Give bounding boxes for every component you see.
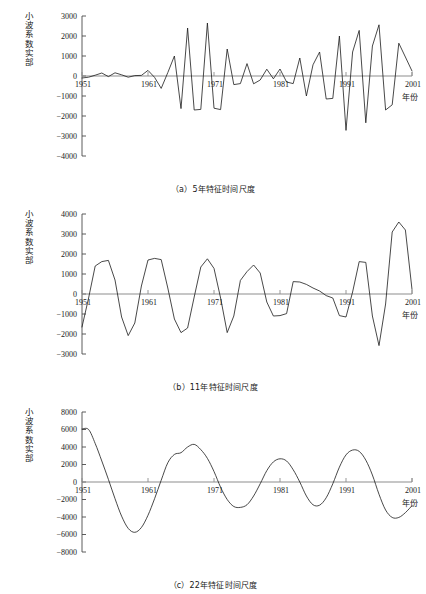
x-tick-label: 1981 (273, 486, 289, 495)
y-tick-label: 2000 (61, 250, 77, 259)
y-tick-label: 2000 (61, 460, 77, 469)
x-axis-label: 年份 (402, 310, 418, 320)
series-line (82, 222, 412, 346)
chart-svg-a: 3000200010000−1000−2000−3000−40001951196… (0, 0, 426, 172)
chart-svg-b: 40003000200010000−1000−2000−300019511961… (0, 198, 426, 370)
x-tick-label: 1991 (339, 486, 355, 495)
y-tick-label: −3000 (56, 350, 77, 359)
y-tick-label: 4000 (61, 443, 77, 452)
y-tick-label: 3000 (61, 230, 77, 239)
x-tick-label: 1951 (75, 486, 91, 495)
plot-area-a: 小波系数实部 3000200010000−1000−2000−3000−4000… (0, 0, 426, 172)
x-tick-label: 2001 (405, 80, 421, 89)
chart-svg-c: 80006000400020000−2000−4000−6000−8000195… (0, 396, 426, 568)
series-line (82, 428, 412, 532)
y-tick-label: −6000 (56, 530, 77, 539)
y-tick-label: 4000 (61, 210, 77, 219)
x-tick-label: 1961 (141, 80, 157, 89)
y-tick-label: −2000 (56, 112, 77, 121)
y-tick-label: −4000 (56, 513, 77, 522)
caption-a: （a）5年特征时间尺度 (0, 183, 426, 194)
x-tick-label: 1991 (339, 80, 355, 89)
chart-panel-a: 小波系数实部 3000200010000−1000−2000−3000−4000… (0, 0, 426, 198)
caption-b: （b）11年特征时间尺度 (0, 381, 426, 392)
plot-area-c: 小波系数实部 80006000400020000−2000−4000−6000−… (0, 396, 426, 568)
y-tick-label: 1000 (61, 270, 77, 279)
x-tick-label: 1981 (273, 298, 289, 307)
chart-panel-b: 小波系数实部 40003000200010000−1000−2000−30001… (0, 198, 426, 396)
x-axis-label: 年份 (402, 92, 418, 102)
y-tick-label: −8000 (56, 548, 77, 557)
x-axis-label: 年份 (402, 498, 418, 508)
y-tick-label: 6000 (61, 425, 77, 434)
y-tick-label: −3000 (56, 132, 77, 141)
caption-c: （c）22年特征时间尺度 (0, 579, 426, 590)
y-tick-label: −1000 (56, 310, 77, 319)
y-tick-label: 3000 (61, 12, 77, 21)
y-tick-label: −1000 (56, 92, 77, 101)
y-tick-label: −4000 (56, 152, 77, 161)
y-tick-label: −2000 (56, 495, 77, 504)
x-tick-label: 1951 (75, 80, 91, 89)
y-tick-label: 8000 (61, 408, 77, 417)
y-tick-label: −2000 (56, 330, 77, 339)
chart-panel-c: 小波系数实部 80006000400020000−2000−4000−6000−… (0, 396, 426, 594)
y-tick-label: 1000 (61, 52, 77, 61)
x-tick-label: 1991 (339, 298, 355, 307)
figure-page: 小波系数实部 3000200010000−1000−2000−3000−4000… (0, 0, 426, 594)
plot-area-b: 小波系数实部 40003000200010000−1000−2000−30001… (0, 198, 426, 370)
series-line (82, 23, 412, 130)
x-tick-label: 1971 (207, 80, 223, 89)
x-tick-label: 2001 (405, 486, 421, 495)
x-tick-label: 1961 (141, 298, 157, 307)
x-tick-label: 2001 (405, 298, 421, 307)
x-tick-label: 1961 (141, 486, 157, 495)
y-tick-label: 2000 (61, 32, 77, 41)
